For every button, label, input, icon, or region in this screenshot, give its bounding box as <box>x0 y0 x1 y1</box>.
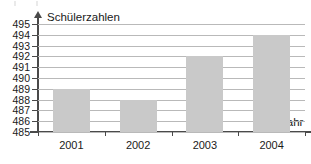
y-axis-tick-label: 489 <box>0 84 30 94</box>
y-axis-tick <box>32 46 38 47</box>
bar <box>53 89 90 132</box>
bar-chart: Schülerzahlen Jahr 485486487488489490491… <box>0 0 311 164</box>
y-axis-tick-label: 495 <box>0 19 30 29</box>
y-axis-tick <box>32 121 38 122</box>
y-axis-tick <box>32 35 38 36</box>
gridline <box>38 24 305 25</box>
y-axis-tick-label: 494 <box>0 30 30 40</box>
bar <box>253 35 290 132</box>
x-axis-tick <box>172 131 173 136</box>
x-axis-tick-label: 2002 <box>108 139 168 151</box>
y-axis-title: Schülerzahlen <box>47 11 120 24</box>
x-axis-tick <box>38 131 39 136</box>
x-axis-tick <box>105 131 106 136</box>
y-axis-tick-label: 488 <box>0 95 30 105</box>
y-axis-tick-label: 493 <box>0 41 30 51</box>
y-axis-tick <box>32 100 38 101</box>
y-axis-tick-label: 487 <box>0 105 30 115</box>
y-axis-tick <box>32 24 38 25</box>
plot-area <box>38 24 305 132</box>
y-axis-tick <box>32 89 38 90</box>
y-axis-arrow-icon <box>34 11 42 18</box>
y-axis-tick <box>32 67 38 68</box>
x-axis-tick-label: 2001 <box>41 139 101 151</box>
bar <box>186 56 223 132</box>
y-axis-tick-label: 490 <box>0 73 30 83</box>
y-axis-tick <box>32 56 38 57</box>
x-axis-tick-label: 2004 <box>242 139 302 151</box>
x-axis-tick <box>305 131 306 136</box>
x-axis-tick <box>238 131 239 136</box>
y-axis-tick-label: 486 <box>0 116 30 126</box>
scan-artifact <box>6 1 76 6</box>
bar <box>120 100 157 132</box>
x-axis-tick-label: 2003 <box>175 139 235 151</box>
y-axis-tick-label: 491 <box>0 62 30 72</box>
y-axis-tick <box>32 110 38 111</box>
y-axis-tick-label: 485 <box>0 127 30 137</box>
y-axis-tick <box>32 78 38 79</box>
y-axis-tick-label: 492 <box>0 51 30 61</box>
